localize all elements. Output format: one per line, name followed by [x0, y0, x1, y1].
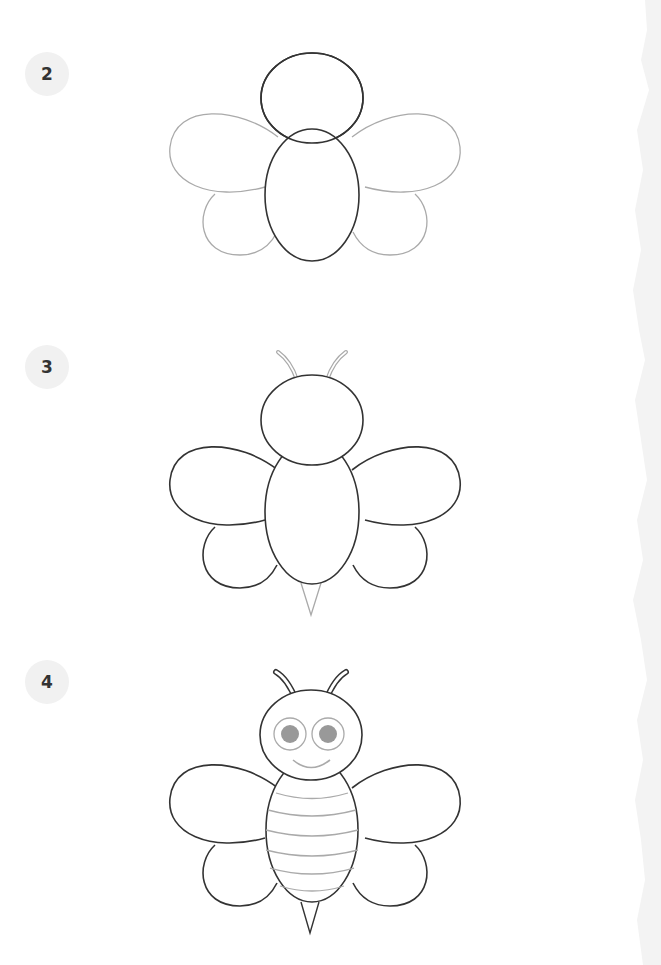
bee-step-4	[170, 672, 461, 933]
bee-drawing-steps	[0, 0, 661, 965]
bee-step-2	[170, 53, 461, 261]
torn-edge-decoration	[631, 0, 661, 965]
bee-step-3	[170, 352, 461, 615]
right-pupil	[319, 725, 337, 743]
left-pupil	[281, 725, 299, 743]
